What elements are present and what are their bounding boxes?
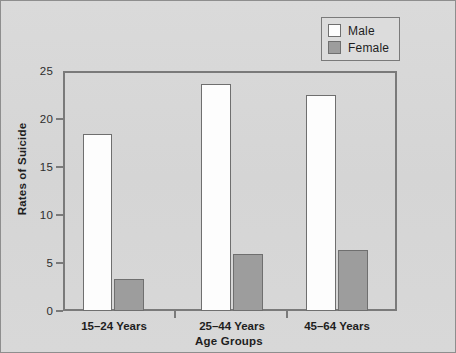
y-tick-mark-20 xyxy=(56,118,63,120)
bar-male-25-44 xyxy=(201,84,231,311)
legend-item-female: Female xyxy=(328,39,389,56)
y-tick-label-5: 5 xyxy=(46,255,53,271)
legend-label-male: Male xyxy=(348,24,375,38)
x-tick-label-25-44: 25–44 Years xyxy=(199,320,265,332)
y-tick-mark-15 xyxy=(56,166,63,168)
bar-female-45-64 xyxy=(338,250,368,311)
legend-swatch-female-icon xyxy=(328,41,341,54)
y-tick-label-10: 10 xyxy=(40,207,53,223)
bar-male-15-24 xyxy=(83,134,112,311)
chart-legend: Male Female xyxy=(321,17,400,61)
bar-female-15-24 xyxy=(114,279,144,311)
y-tick-label-20: 20 xyxy=(40,111,53,127)
bar-female-25-44 xyxy=(233,254,263,311)
chart-figure: 0 5 10 15 20 25 Rates of Suicide xyxy=(0,0,456,353)
bar-male-45-64 xyxy=(306,95,336,311)
y-tick-label-0: 0 xyxy=(46,303,53,319)
x-tick-label-15-24: 15–24 Years xyxy=(81,320,147,332)
y-tick-mark-10 xyxy=(56,214,63,216)
x-axis-title: Age Groups xyxy=(1,335,456,347)
y-tick-mark-0 xyxy=(56,310,63,312)
y-tick-label-15: 15 xyxy=(40,159,53,175)
y-axis-title: Rates of Suicide xyxy=(16,99,28,239)
x-tick-label-45-64: 45–64 Years xyxy=(304,320,370,332)
x-tick-mark-2 xyxy=(286,311,288,318)
x-tick-mark-1 xyxy=(174,311,176,318)
legend-item-male: Male xyxy=(328,22,389,39)
legend-swatch-male-icon xyxy=(328,24,341,37)
y-tick-mark-5 xyxy=(56,262,63,264)
y-axis: 0 5 10 15 20 25 xyxy=(1,1,63,353)
legend-label-female: Female xyxy=(348,41,389,55)
y-tick-label-25: 25 xyxy=(40,63,53,79)
